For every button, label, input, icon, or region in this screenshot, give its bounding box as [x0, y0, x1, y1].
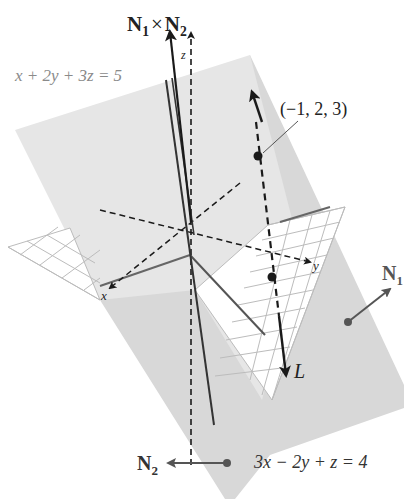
x-axis-label: x: [101, 288, 107, 304]
point-on-xy-plane: [268, 273, 277, 282]
normal-1-label: N1: [382, 262, 403, 289]
plane-2-equation: 3x − 2y + z = 4: [254, 452, 367, 473]
normal-2-label: N2: [137, 452, 158, 479]
line-L-label: L: [294, 360, 305, 383]
point-marker: [254, 152, 263, 161]
diagram-canvas: N1×N2 x + 2y + 3z = 5 z (−1, 2, 3) x y L…: [0, 0, 404, 499]
z-axis-label: z: [181, 48, 186, 63]
point-label: (−1, 2, 3): [280, 99, 347, 120]
cross-product-label: N1×N2: [127, 12, 187, 40]
plane-1-equation: x + 2y + 3z = 5: [15, 66, 122, 86]
y-axis-label: y: [313, 258, 319, 274]
